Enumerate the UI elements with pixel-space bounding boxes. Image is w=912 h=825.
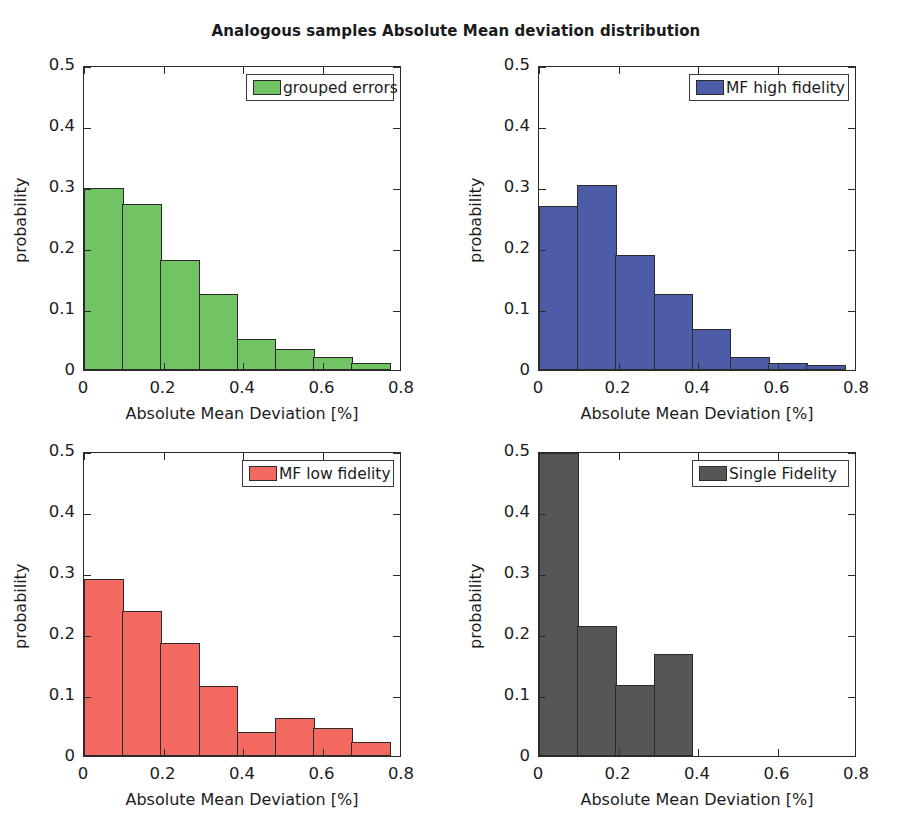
x-tick-mark <box>539 453 540 460</box>
y-tick-mark <box>539 636 546 637</box>
histogram-bar <box>615 685 655 756</box>
x-tick-mark <box>698 749 699 756</box>
y-tick-label: 0.5 <box>480 441 530 460</box>
figure-canvas: Analogous samples Absolute Mean deviatio… <box>0 0 912 825</box>
legend-label: Single Fidelity <box>729 465 837 483</box>
x-tick-mark <box>539 749 540 756</box>
y-tick-mark <box>848 514 855 515</box>
y-tick-mark <box>539 697 546 698</box>
y-tick-mark <box>848 575 855 576</box>
legend[interactable]: Single Fidelity <box>692 460 849 487</box>
y-tick-label: 0.4 <box>480 502 530 521</box>
x-tick-label: 0.8 <box>826 764 886 783</box>
y-tick-mark <box>848 453 855 454</box>
y-tick-mark <box>539 453 546 454</box>
x-tick-label: 0.2 <box>588 764 648 783</box>
y-tick-label: 0.3 <box>480 563 530 582</box>
histogram-bar <box>539 453 579 756</box>
histogram-bar <box>577 626 617 756</box>
plot-area: Single Fidelity <box>538 452 856 757</box>
x-tick-label: 0 <box>508 764 568 783</box>
histogram-bars <box>539 453 855 756</box>
x-tick-mark <box>698 453 699 460</box>
y-tick-label: 0.2 <box>480 624 530 643</box>
y-tick-mark <box>539 514 546 515</box>
y-tick-mark <box>848 636 855 637</box>
subplot-bottom-right: Single Fidelity00.10.20.30.40.500.20.40.… <box>0 0 912 825</box>
legend-color-swatch <box>699 466 727 481</box>
x-tick-mark <box>778 749 779 756</box>
x-tick-label: 0.4 <box>667 764 727 783</box>
x-tick-label: 0.6 <box>747 764 807 783</box>
x-axis-title: Absolute Mean Deviation [%] <box>478 790 912 809</box>
y-tick-label: 0.1 <box>480 685 530 704</box>
histogram-bar <box>654 654 694 756</box>
y-tick-label: 0 <box>480 746 530 765</box>
x-tick-mark <box>619 749 620 756</box>
x-tick-mark <box>778 453 779 460</box>
y-tick-mark <box>539 575 546 576</box>
x-tick-mark <box>619 453 620 460</box>
y-tick-mark <box>848 697 855 698</box>
y-axis-title: probability <box>466 563 485 648</box>
